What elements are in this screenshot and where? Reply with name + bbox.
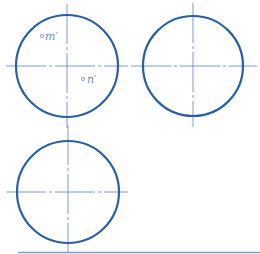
point-label: m′ [45, 30, 58, 43]
point-marker [81, 77, 84, 80]
projection-diagram: m′ n′ [0, 0, 260, 254]
view-bottom-left [6, 125, 128, 252]
point-n-prime: n′ [81, 73, 97, 86]
view-top-left [6, 4, 128, 128]
point-label: n′ [87, 73, 97, 86]
point-m-prime: m′ [40, 30, 58, 43]
point-marker [40, 34, 43, 37]
view-top-right [131, 3, 257, 127]
